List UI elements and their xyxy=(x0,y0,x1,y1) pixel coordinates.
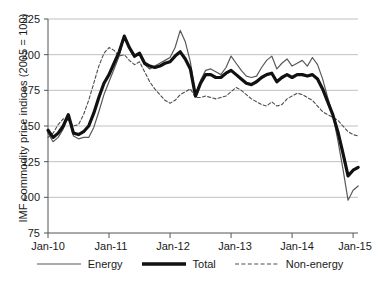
legend-label-non-energy: Non-energy xyxy=(286,258,343,270)
legend-item-energy: Energy xyxy=(36,258,123,270)
legend-label-energy: Energy xyxy=(88,258,123,270)
legend-label-total: Total xyxy=(193,258,216,270)
energy-line-swatch-icon xyxy=(36,259,82,269)
series-line-total xyxy=(48,36,358,176)
legend-item-total: Total xyxy=(141,258,216,270)
chart-legend: Energy Total Non-energy xyxy=(0,258,379,270)
total-line-swatch-icon xyxy=(141,259,187,269)
commodity-price-chart: IMF commodity price indices (2005 = 100)… xyxy=(0,0,379,285)
legend-item-non-energy: Non-energy xyxy=(234,258,343,270)
plot-area xyxy=(0,0,379,285)
non-energy-line-swatch-icon xyxy=(234,259,280,269)
